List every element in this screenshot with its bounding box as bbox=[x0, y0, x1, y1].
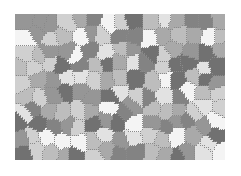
grain-microstructure-image bbox=[15, 14, 225, 160]
grain-raster bbox=[15, 14, 225, 160]
grain-polygons bbox=[15, 14, 225, 160]
